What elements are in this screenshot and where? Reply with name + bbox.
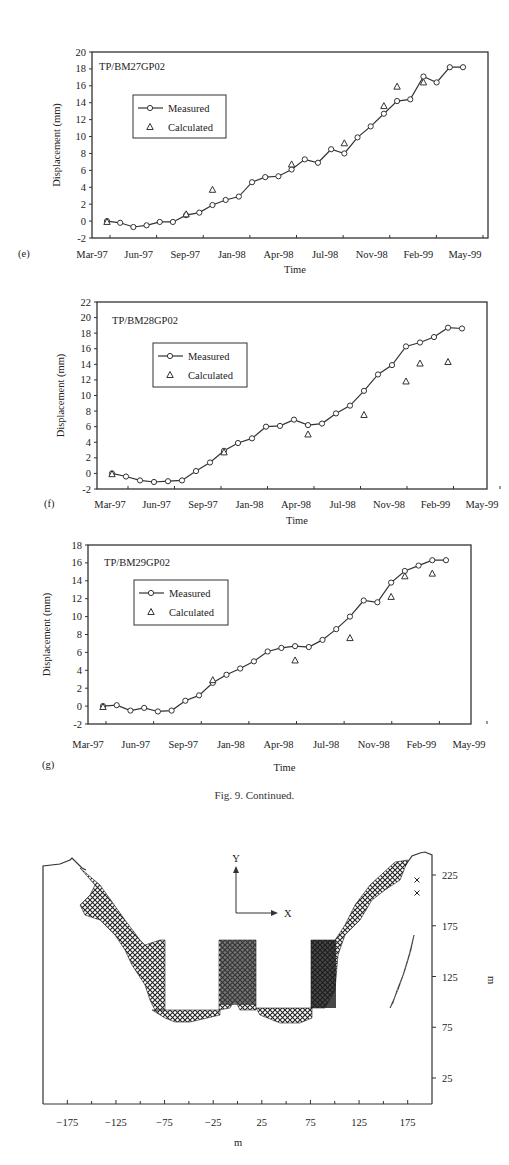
svg-text:Calculated: Calculated <box>168 122 214 133</box>
svg-text:May-99: May-99 <box>452 739 485 750</box>
figure-caption: Fig. 9. Continued. <box>0 789 509 801</box>
svg-text:TP/BM28GP02: TP/BM28GP02 <box>112 315 178 326</box>
svg-text:Time: Time <box>286 515 308 526</box>
svg-text:12: 12 <box>81 374 92 385</box>
svg-text:Jul-98: Jul-98 <box>329 499 355 510</box>
svg-text:8: 8 <box>86 406 91 417</box>
svg-text:6: 6 <box>77 647 82 658</box>
svg-text:Mar-97: Mar-97 <box>94 499 125 510</box>
svg-text:Nov-98: Nov-98 <box>356 249 388 260</box>
svg-text:Jan-98: Jan-98 <box>236 499 264 510</box>
yield-zone-0 <box>80 868 165 1010</box>
svg-text:125: 125 <box>442 972 458 983</box>
svg-text:Nov-98: Nov-98 <box>373 499 405 510</box>
svg-text:0: 0 <box>86 468 91 479</box>
svg-text:Jan-98: Jan-98 <box>218 249 246 260</box>
svg-text:−25: −25 <box>205 1117 221 1128</box>
svg-text:14: 14 <box>76 97 87 108</box>
svg-text:75: 75 <box>305 1117 316 1128</box>
svg-text:25: 25 <box>257 1117 268 1128</box>
chart-e: -202468101214161820Mar-97Jun-97Sep-97Jan… <box>18 47 488 276</box>
svg-text:Sep-97: Sep-97 <box>168 739 198 750</box>
svg-text:m: m <box>486 976 497 984</box>
svg-text:Jun-97: Jun-97 <box>121 739 150 750</box>
svg-text:16: 16 <box>72 557 83 568</box>
svg-text:(e): (e) <box>18 248 30 260</box>
svg-text:Calculated: Calculated <box>169 607 215 618</box>
svg-text:Measured: Measured <box>188 351 230 362</box>
svg-text:Feb-99: Feb-99 <box>407 739 437 750</box>
svg-text:4: 4 <box>86 437 92 448</box>
svg-text:4: 4 <box>77 665 83 676</box>
svg-text:Feb-99: Feb-99 <box>421 499 451 510</box>
svg-text:Sep-97: Sep-97 <box>170 249 200 260</box>
legend: MeasuredCalculated <box>133 95 226 138</box>
svg-text:Apr-98: Apr-98 <box>263 249 293 260</box>
svg-text:8: 8 <box>77 629 82 640</box>
svg-text:Mar-97: Mar-97 <box>72 739 103 750</box>
svg-text:18: 18 <box>72 540 83 551</box>
svg-text:75: 75 <box>442 1022 453 1033</box>
svg-text:14: 14 <box>72 575 83 586</box>
svg-text:-2: -2 <box>73 719 82 730</box>
svg-text:4: 4 <box>81 182 87 193</box>
svg-text:Displacement (mm): Displacement (mm) <box>55 353 67 437</box>
svg-text:125: 125 <box>351 1117 367 1128</box>
svg-text:175: 175 <box>400 1117 416 1128</box>
svg-text:Displacement (mm): Displacement (mm) <box>41 592 53 676</box>
figure-canvas: -202468101214161820Mar-97Jun-97Sep-97Jan… <box>0 0 509 1165</box>
svg-text:20: 20 <box>76 47 87 58</box>
svg-text:10: 10 <box>76 131 87 142</box>
svg-text:(g): (g) <box>42 759 55 771</box>
chart-f: -20246810121416182022Mar-97Jun-97Sep-97J… <box>44 297 500 527</box>
svg-text:Sep-97: Sep-97 <box>188 499 218 510</box>
svg-text:0: 0 <box>77 701 82 712</box>
svg-text:Apr-98: Apr-98 <box>263 739 293 750</box>
svg-text:Measured: Measured <box>168 103 210 114</box>
svg-text:12: 12 <box>76 114 87 125</box>
svg-text:Nov-98: Nov-98 <box>358 739 390 750</box>
yield-zone-1 <box>152 1010 220 1022</box>
yield-zone-5 <box>390 935 414 1008</box>
svg-text:-2: -2 <box>77 233 86 244</box>
svg-text:Apr-98: Apr-98 <box>281 499 311 510</box>
svg-text:Jun-97: Jun-97 <box>124 249 153 260</box>
svg-text:10: 10 <box>72 611 83 622</box>
svg-text:(f): (f) <box>44 498 55 510</box>
svg-text:10: 10 <box>81 390 92 401</box>
svg-text:18: 18 <box>76 63 87 74</box>
svg-text:225: 225 <box>442 870 458 881</box>
svg-text:175: 175 <box>442 921 458 932</box>
svg-text:2: 2 <box>86 452 91 463</box>
svg-text:Measured: Measured <box>169 588 211 599</box>
svg-text:Time: Time <box>274 762 296 773</box>
svg-text:TP/BM29GP02: TP/BM29GP02 <box>104 557 170 568</box>
svg-text:16: 16 <box>81 343 92 354</box>
svg-text:Mar-97: Mar-97 <box>76 249 107 260</box>
svg-text:Jul-98: Jul-98 <box>313 739 339 750</box>
svg-text:22: 22 <box>81 297 92 308</box>
svg-text:2: 2 <box>77 683 82 694</box>
svg-text:18: 18 <box>81 328 92 339</box>
svg-text:12: 12 <box>72 593 83 604</box>
svg-text:X: X <box>284 908 292 919</box>
svg-text:-2: -2 <box>82 484 91 495</box>
svg-text:6: 6 <box>86 421 91 432</box>
svg-text:6: 6 <box>81 165 86 176</box>
svg-text:Jul-98: Jul-98 <box>312 249 338 260</box>
svg-text:25: 25 <box>442 1073 453 1084</box>
yield-zone-3 <box>256 1008 312 1023</box>
svg-text:May-99: May-99 <box>448 249 481 260</box>
chart-g: -2024681012141618Mar-97Jun-97Sep-97Jan-9… <box>41 540 487 774</box>
svg-text:14: 14 <box>81 359 92 370</box>
svg-text:Jun-97: Jun-97 <box>142 499 171 510</box>
svg-text:0: 0 <box>81 216 86 227</box>
svg-text:TP/BM27GP02: TP/BM27GP02 <box>99 61 165 72</box>
svg-text:−75: −75 <box>156 1117 172 1128</box>
svg-text:−175: −175 <box>56 1117 78 1128</box>
svg-text:Time: Time <box>284 264 306 275</box>
svg-text:Calculated: Calculated <box>188 370 234 381</box>
legend: MeasuredCalculated <box>153 343 247 387</box>
svg-text:16: 16 <box>76 80 87 91</box>
svg-text:8: 8 <box>81 148 86 159</box>
